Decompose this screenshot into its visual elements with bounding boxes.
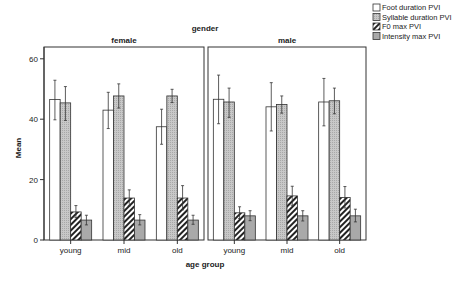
y-tick-label: 40 [29,115,38,124]
bar [277,104,288,240]
x-axis-label: age group [186,260,225,269]
bar [167,96,178,240]
bar [224,102,235,240]
legend-item: F0 max PVI [373,22,421,31]
x-tick-label: young [223,246,245,255]
x-tick-label: mid [118,246,131,255]
legend-item: Foot duration PVI [373,3,440,12]
svg-text:Foot duration PVI: Foot duration PVI [382,3,440,12]
y-tick-label: 0 [34,236,39,245]
x-tick-label: young [60,246,82,255]
svg-text:Intensity max PVI: Intensity max PVI [382,32,440,41]
svg-text:F0 max PVI: F0 max PVI [382,22,421,31]
chart-title: gender [192,24,219,33]
x-tick-label: mid [281,246,294,255]
bar [329,101,340,240]
group-old: old [156,89,198,255]
x-tick-label: old [334,246,345,255]
bar [50,100,61,240]
y-axis: 0204060 [29,47,44,245]
y-tick-label: 60 [29,55,38,64]
group-old: old [319,78,361,255]
bar [114,96,125,240]
panel-label: female [111,36,137,45]
bar [103,110,114,240]
bar [60,103,71,240]
panel-male: maleyoungmidold [208,36,366,255]
group-mid: mid [266,83,308,255]
group-young: young [213,75,255,255]
y-axis-label: Mean [14,138,23,159]
group-mid: mid [103,84,145,255]
legend-item: Syllable duration PVI [373,13,452,22]
legend: Foot duration PVISyllable duration PVIF0… [373,3,452,41]
group-young: young [50,80,92,255]
svg-text:Syllable duration PVI: Syllable duration PVI [382,13,452,22]
panel-label: male [278,36,297,45]
panel-female: femaleyoungmidold [44,36,204,255]
x-tick-label: old [172,246,183,255]
y-tick-label: 20 [29,176,38,185]
legend-item: Intensity max PVI [373,32,440,41]
bar-chart: gender age group Mean 0204060femaleyoung… [0,0,470,282]
